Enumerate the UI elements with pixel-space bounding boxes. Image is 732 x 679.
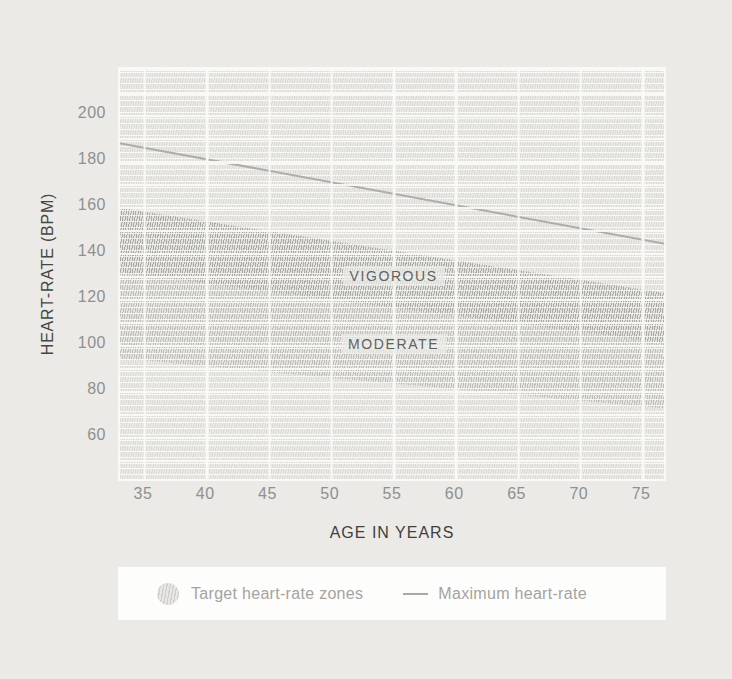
y-tick-label: 60 — [87, 426, 106, 444]
heart-rate-chart-page: HEART-RATE (BPM) 2001801601401201008060 … — [0, 0, 732, 679]
x-tick-label: 70 — [569, 485, 588, 503]
x-tick-label: 55 — [383, 485, 402, 503]
legend-max-heart-rate-label: Maximum heart-rate — [438, 585, 587, 603]
x-tick-label: 50 — [320, 485, 339, 503]
y-tick-label: 120 — [78, 288, 106, 306]
target-zones-swatch-icon — [157, 583, 179, 605]
x-tick-label: 75 — [632, 485, 651, 503]
y-tick-label: 200 — [78, 104, 106, 122]
y-tick-label: 180 — [78, 150, 106, 168]
vigorous-zone-label: VIGOROUS — [343, 266, 445, 286]
x-tick-label: 65 — [507, 485, 526, 503]
legend: Target heart-rate zones Maximum heart-ra… — [118, 567, 666, 620]
x-tick-label: 35 — [134, 485, 153, 503]
x-tick-labels: 354045505560657075 — [118, 485, 666, 505]
y-tick-label: 140 — [78, 242, 106, 260]
max-heart-rate-swatch-icon — [403, 593, 428, 595]
y-tick-label: 80 — [87, 380, 106, 398]
plot-area: VIGOROUS MODERATE — [118, 67, 666, 481]
legend-target-zones-label: Target heart-rate zones — [191, 585, 363, 603]
y-tick-label: 100 — [78, 334, 106, 352]
x-tick-label: 45 — [258, 485, 277, 503]
moderate-zone-label: MODERATE — [341, 334, 446, 354]
y-tick-label: 160 — [78, 196, 106, 214]
x-tick-label: 60 — [445, 485, 464, 503]
x-axis-title: AGE IN YEARS — [118, 524, 666, 542]
y-tick-labels: 2001801601401201008060 — [58, 67, 106, 481]
x-tick-label: 40 — [196, 485, 215, 503]
y-axis-title: HEART-RATE (BPM) — [39, 193, 57, 355]
